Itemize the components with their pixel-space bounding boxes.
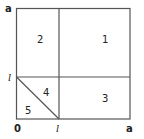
region-3-label: 3	[102, 93, 108, 104]
origin-label: 0	[14, 123, 21, 134]
outer-square	[17, 9, 131, 120]
region-5-label: 5	[25, 105, 31, 116]
diagonal-line	[17, 77, 60, 119]
region-4-label: 4	[43, 87, 49, 98]
region-2-label: 2	[37, 34, 43, 45]
x-axis-label-l: l	[56, 123, 59, 134]
y-axis-label-l: l	[8, 72, 11, 83]
partition-diagram: a l 0 l a 1 2 3 4 5	[0, 0, 144, 139]
x-axis-label-a: a	[126, 123, 133, 134]
region-1-label: 1	[102, 34, 108, 45]
y-axis-label-a: a	[5, 3, 12, 14]
